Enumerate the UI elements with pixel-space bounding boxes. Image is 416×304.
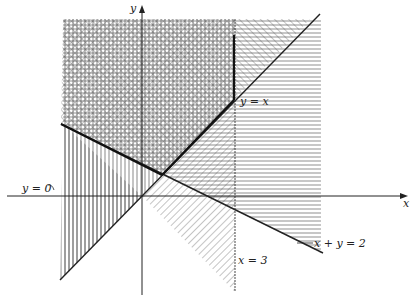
label-y-eq-x: y = x <box>239 95 269 108</box>
inequality-diagram: y x y = 0 y = x x = 3 x + y = 2 <box>0 0 416 304</box>
label-x-eq-3: x = 3 <box>238 254 267 267</box>
label-y-eq-0: y = 0 <box>21 182 51 195</box>
y-axis-label: y <box>129 2 137 15</box>
x-axis-label: x <box>403 197 410 210</box>
label-x-plus-y-eq-2: x + y = 2 <box>314 237 366 250</box>
